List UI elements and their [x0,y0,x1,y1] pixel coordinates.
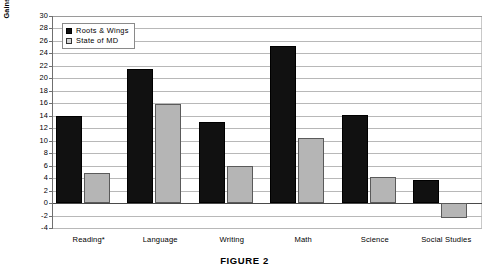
gridline [53,116,482,117]
bar [270,46,296,203]
x-tick-label: Language [125,234,197,246]
gridline [53,128,482,129]
figure-2-chart: Gains in percent satisfactory or excelle… [0,0,489,275]
y-tick-label: 6 [8,162,48,170]
bar [84,173,110,203]
y-tick-label: -2 [8,212,48,220]
figure-caption: FIGURE 2 [0,255,489,266]
y-tick-label: 10 [8,137,48,145]
gridline [53,91,482,92]
y-tick-mark [49,16,53,17]
y-tick-label: 16 [8,99,48,107]
gridline [53,78,482,79]
y-tick-label: 8 [8,149,48,157]
bar [441,203,467,218]
x-tick-label: Math [268,234,340,246]
bar [127,69,153,203]
y-tick-mark [49,128,53,129]
y-tick-label: 28 [8,24,48,32]
y-tick-mark [49,203,53,204]
bar [155,104,181,203]
y-tick-mark [49,116,53,117]
y-tick-label: 2 [8,187,48,195]
y-tick-label: 18 [8,87,48,95]
gridline [53,203,482,204]
y-tick-mark [49,91,53,92]
bar [199,122,225,203]
y-tick-label: 30 [8,12,48,20]
y-tick-mark [49,78,53,79]
y-tick-mark [49,103,53,104]
y-tick-label: 22 [8,62,48,70]
y-tick-label: 26 [8,37,48,45]
y-tick-label: 12 [8,124,48,132]
gridline [53,228,482,229]
gridline [53,166,482,167]
y-tick-mark [49,191,53,192]
gridline [53,178,482,179]
y-tick-label: 0 [8,199,48,207]
x-tick-label: Writing [196,234,268,246]
gridline [53,141,482,142]
gridline [53,16,482,17]
x-tick-label: Reading* [53,234,125,246]
gridline [53,216,482,217]
legend-item-roots-and-wings: Roots & Wings [66,26,129,36]
gridline [53,153,482,154]
y-tick-mark [49,41,53,42]
y-tick-mark [49,28,53,29]
bar [413,180,439,203]
gridline [53,103,482,104]
y-tick-label: 24 [8,49,48,57]
legend-item-state-of-md: State of MD [66,36,129,46]
bar [370,177,396,203]
y-tick-label: -4 [8,224,48,232]
y-tick-label: 14 [8,112,48,120]
y-tick-mark [49,178,53,179]
bar [56,116,82,203]
y-tick-mark [49,228,53,229]
y-tick-label: 20 [8,74,48,82]
gridline [53,53,482,54]
y-tick-mark [49,166,53,167]
x-tick-label: Social Studies [411,234,483,246]
x-axis-tick-labels: Reading*LanguageWritingMathScienceSocial… [53,234,482,248]
x-tick-label: Science [339,234,411,246]
chart-legend: Roots & Wings State of MD [62,23,135,49]
y-tick-mark [49,66,53,67]
legend-swatch-icon-roots-and-wings [66,28,72,34]
y-axis-tick-labels: 302826242220181614121086420-2-4 [4,16,48,228]
y-tick-mark [49,141,53,142]
legend-swatch-icon-state-of-md [66,38,72,44]
gridline [53,66,482,67]
y-tick-mark [49,53,53,54]
bar [227,166,253,203]
legend-label-roots-and-wings: Roots & Wings [76,26,129,36]
y-tick-mark [49,153,53,154]
y-tick-label: 4 [8,174,48,182]
bar [342,115,368,204]
legend-label-state-of-md: State of MD [76,36,118,46]
y-tick-mark [49,216,53,217]
bar [298,138,324,203]
